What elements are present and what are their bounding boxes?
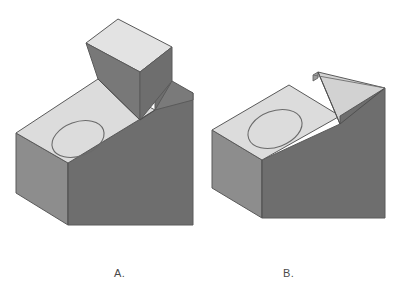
object-b-group [212,72,385,218]
object-b-notch-sliver-wall [313,72,318,81]
object-a-group [16,19,193,225]
object-b-label: B. [283,267,294,279]
object-a-label: A. [114,267,125,279]
isometric-figure-canvas [0,0,404,303]
